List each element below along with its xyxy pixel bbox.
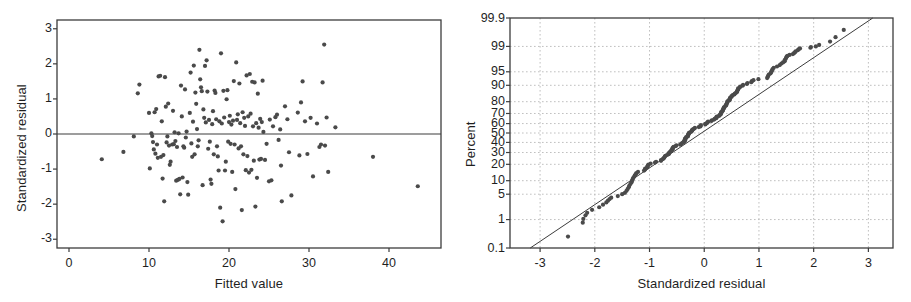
- right-x-tick-1: -2: [575, 256, 615, 270]
- left-y-tick-4: -1: [20, 161, 52, 175]
- right-y-tick-1: 99: [457, 39, 505, 53]
- left-x-tick-4: 40: [369, 256, 409, 270]
- left-x-tick-0: 0: [49, 256, 89, 270]
- left-y-tick-3: 0: [20, 126, 52, 140]
- right-y-tick-11: 10: [457, 173, 505, 187]
- left-x-tick-2: 20: [209, 256, 249, 270]
- left-x-tick-1: 10: [129, 256, 169, 270]
- right-x-tick-3: 0: [684, 256, 724, 270]
- right-y-tick-3: 90: [457, 78, 505, 92]
- right-x-tick-4: 1: [739, 256, 779, 270]
- right-x-axis-title: Standardized residual: [510, 276, 893, 291]
- panel-residuals-vs-fits: Standardized residual Fitted value 3210-…: [0, 0, 456, 302]
- panel-normal-probability-plot: Percent Standardized residual 99.9999590…: [455, 0, 911, 302]
- left-y-tick-2: 1: [20, 91, 52, 105]
- left-y-tick-0: 3: [20, 21, 52, 35]
- right-x-tick-2: -1: [630, 256, 670, 270]
- right-y-tick-10: 20: [457, 157, 505, 171]
- right-x-tick-5: 2: [794, 256, 834, 270]
- left-x-axis-title: Fitted value: [57, 276, 441, 291]
- probability-plot-points: [566, 28, 846, 239]
- right-y-tick-14: 0.1: [457, 241, 505, 255]
- figure-two-panel-residual-diagnostics: Standardized residual Fitted value 3210-…: [0, 0, 911, 302]
- scatter-points: [100, 42, 420, 223]
- left-x-tick-3: 30: [289, 256, 329, 270]
- right-y-tick-12: 5: [457, 187, 505, 201]
- left-y-tick-1: 2: [20, 56, 52, 70]
- right-x-tick-0: -3: [520, 256, 560, 270]
- right-y-tick-2: 95: [457, 64, 505, 78]
- right-y-tick-0: 99.9: [457, 11, 505, 25]
- left-y-tick-6: -3: [20, 231, 52, 245]
- right-y-tick-13: 1: [457, 212, 505, 226]
- left-y-tick-5: -2: [20, 196, 52, 210]
- right-x-tick-6: 3: [848, 256, 888, 270]
